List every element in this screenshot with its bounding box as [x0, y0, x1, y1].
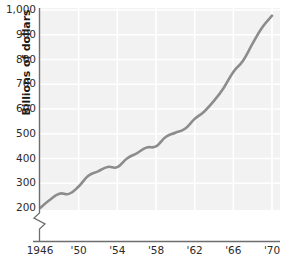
y-tick-label: 800 — [0, 54, 36, 65]
x-tick-label: '62 — [187, 245, 203, 256]
y-tick-label: 1,000 — [0, 4, 36, 15]
y-tick-label: 900 — [0, 29, 36, 40]
y-axis-tick-labels: 2003004005006007008009001,000 — [0, 0, 36, 262]
horizontal-gridlines — [40, 10, 280, 183]
x-tick-label: 1946 — [27, 245, 54, 256]
x-axis-tick-labels: 1946'50'54'58'62'66'70 — [0, 245, 283, 261]
y-tick-label: 700 — [0, 78, 36, 89]
y-tick-label: 600 — [0, 103, 36, 114]
x-tick-label: '50 — [71, 245, 87, 256]
chart-container: Billions of dollars 20030040050060070080… — [0, 0, 283, 262]
x-tick-label: '70 — [264, 245, 280, 256]
x-tick-label: '58 — [148, 245, 164, 256]
y-tick-label: 500 — [0, 128, 36, 139]
x-tick-label: '66 — [225, 245, 241, 256]
y-tick-label: 300 — [0, 177, 36, 188]
y-tick-label: 400 — [0, 153, 36, 164]
plot-svg — [40, 8, 280, 210]
y-tick-label: 200 — [0, 202, 36, 213]
plot-area — [40, 8, 280, 210]
x-tick-label: '54 — [109, 245, 125, 256]
